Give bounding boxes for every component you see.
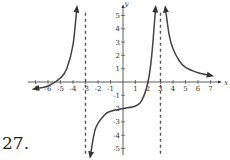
x-tick-label: 4 — [171, 85, 176, 93]
x-tick-label: 1 — [133, 85, 137, 93]
x-tick-label: 6 — [196, 85, 201, 93]
function-graph: xy -7-6-5-4-3-2-11234567-5-4-3-2-112345 — [0, 0, 230, 160]
x-tick-label: -2 — [95, 85, 102, 93]
axes: xy — [28, 0, 228, 155]
x-tick-label: -5 — [57, 85, 64, 93]
left-branch — [36, 9, 77, 89]
x-tick-label: 7 — [208, 85, 212, 93]
x-tick-label: -4 — [70, 85, 77, 93]
y-tick-label: 3 — [116, 39, 120, 47]
y-tick-label: 2 — [116, 52, 120, 60]
x-tick-label: 3 — [158, 85, 162, 93]
problem-number: 27. — [2, 133, 29, 153]
y-tick-label: 1 — [116, 65, 120, 73]
y-axis-label: y — [124, 0, 130, 8]
y-tick-label: -5 — [113, 145, 120, 153]
x-tick-label: 5 — [183, 85, 187, 93]
x-tick-label: -3 — [82, 85, 89, 93]
y-tick-label: 4 — [116, 25, 121, 33]
y-tick-label: -4 — [113, 132, 120, 140]
x-axis-label: x — [224, 79, 228, 87]
right-branch — [166, 9, 211, 76]
y-tick-label: -1 — [113, 92, 120, 100]
y-tick-label: -3 — [113, 118, 120, 126]
y-tick-label: 5 — [116, 12, 120, 20]
axis-ticks: -7-6-5-4-3-2-11234567-5-4-3-2-112345 — [32, 12, 213, 153]
